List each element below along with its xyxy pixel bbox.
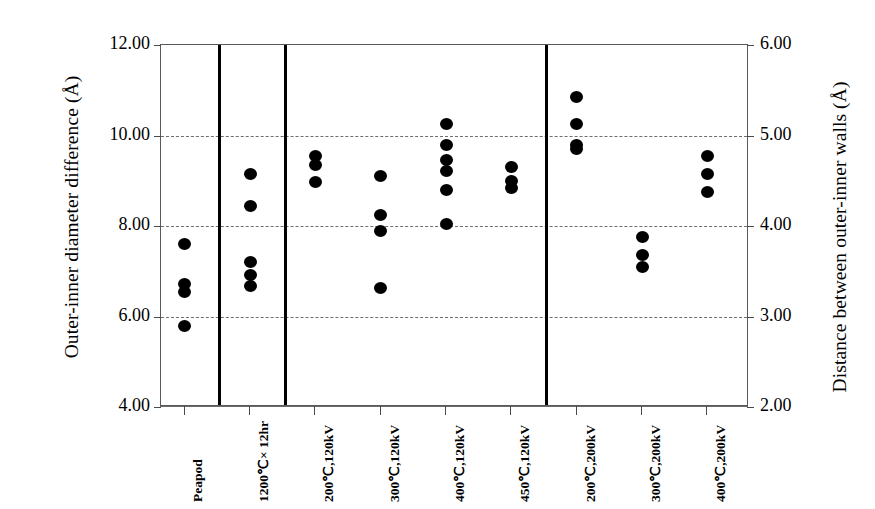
y-tick-label-left-4.00: 4.00 <box>64 395 150 416</box>
data-point <box>636 261 649 273</box>
data-point <box>440 184 453 196</box>
x-tick-mark <box>380 406 381 415</box>
y-tick-label-left-6.00: 6.00 <box>64 305 150 326</box>
x-tick-mark <box>249 406 250 415</box>
x-axis-label-4: 400℃,120kV <box>451 425 468 502</box>
group-separator <box>218 45 221 405</box>
y-tick-label-left-12.00: 12.00 <box>64 33 150 54</box>
data-point <box>505 161 518 173</box>
data-point <box>636 231 649 243</box>
x-tick-mark <box>641 406 642 415</box>
gridline-10.00 <box>161 136 747 137</box>
data-point <box>570 91 583 103</box>
data-point <box>440 218 453 230</box>
gridline-8.00 <box>161 226 747 227</box>
data-point <box>570 118 583 130</box>
data-point <box>440 118 453 130</box>
x-axis-label-6: 200℃,200kV <box>582 425 599 502</box>
x-axis-label-2: 200℃,120kV <box>320 425 337 502</box>
y-tick-mark-left <box>154 45 161 46</box>
data-point <box>636 249 649 261</box>
y-tick-mark-right <box>747 407 754 408</box>
y-tick-label-right-5.00: 5.00 <box>760 124 846 145</box>
data-point <box>374 282 387 294</box>
y-tick-mark-left <box>154 407 161 408</box>
data-point <box>440 139 453 151</box>
x-tick-mark <box>314 406 315 415</box>
y-tick-label-right-4.00: 4.00 <box>760 214 846 235</box>
x-axis-label-0: Peapod <box>190 459 206 502</box>
data-point <box>701 150 714 162</box>
data-point <box>505 182 518 194</box>
y-tick-label-left-8.00: 8.00 <box>64 214 150 235</box>
y-tick-label-right-6.00: 6.00 <box>760 33 846 54</box>
y-tick-mark-left <box>154 136 161 137</box>
data-point <box>244 256 257 268</box>
x-tick-mark <box>510 406 511 415</box>
y-tick-mark-right <box>747 317 754 318</box>
x-axis-label-1: 1200℃× 12hr <box>255 421 272 502</box>
figure-container: Outer-inner diameter difference (Å) Dist… <box>0 0 875 509</box>
x-tick-mark <box>576 406 577 415</box>
data-point <box>309 159 322 171</box>
y-axis-right-title: Distance between outer-inner walls (Å) <box>829 27 851 447</box>
x-tick-mark <box>445 406 446 415</box>
y-tick-mark-right <box>747 45 754 46</box>
data-point <box>244 168 257 180</box>
data-point <box>178 238 191 250</box>
data-point <box>244 200 257 212</box>
y-tick-mark-right <box>747 226 754 227</box>
data-point <box>309 176 322 188</box>
data-point <box>701 186 714 198</box>
data-point <box>244 280 257 292</box>
data-point <box>374 170 387 182</box>
y-tick-label-right-2.00: 2.00 <box>760 395 846 416</box>
y-tick-mark-left <box>154 226 161 227</box>
x-axis-label-5: 450℃,120kV <box>516 425 533 502</box>
x-axis-label-7: 300℃,200kV <box>647 425 664 502</box>
y-tick-mark-right <box>747 136 754 137</box>
plot-area <box>160 44 748 406</box>
x-tick-mark <box>706 406 707 415</box>
data-point <box>374 209 387 221</box>
data-point <box>440 165 453 177</box>
x-axis-label-3: 300℃,120kV <box>386 425 403 502</box>
y-tick-mark-left <box>154 317 161 318</box>
data-point <box>178 286 191 298</box>
data-point <box>374 225 387 237</box>
y-tick-label-right-3.00: 3.00 <box>760 305 846 326</box>
x-axis-label-8: 400℃,200kV <box>712 425 729 502</box>
data-point <box>178 320 191 332</box>
data-point <box>570 143 583 155</box>
group-separator <box>545 45 548 405</box>
y-tick-label-left-10.00: 10.00 <box>64 124 150 145</box>
x-tick-mark <box>184 406 185 415</box>
data-point <box>701 168 714 180</box>
gridline-6.00 <box>161 317 747 318</box>
group-separator <box>284 45 287 405</box>
